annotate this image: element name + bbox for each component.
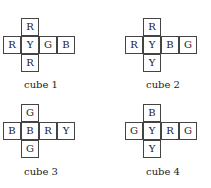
face-row-2: Y	[143, 122, 161, 140]
cube-net-3: G B B R Y G	[3, 104, 79, 160]
face-bottom: Y	[143, 54, 161, 72]
face-row-1: B	[3, 122, 21, 140]
cube-caption-1: cube 1	[3, 79, 79, 90]
face-row-3: G	[39, 36, 57, 54]
face-row-2: Y	[143, 36, 161, 54]
face-top: G	[21, 104, 39, 122]
face-top: B	[143, 104, 161, 122]
face-top: R	[21, 18, 39, 36]
face-row-3: R	[161, 122, 179, 140]
face-row-1: R	[125, 36, 143, 54]
face-bottom: Y	[143, 140, 161, 158]
cube-net-2: R R Y B G Y	[125, 18, 201, 74]
face-top: R	[143, 18, 161, 36]
cube-caption-2: cube 2	[125, 79, 201, 90]
face-row-1: G	[125, 122, 143, 140]
face-row-4: B	[57, 36, 75, 54]
face-bottom: R	[21, 54, 39, 72]
face-row-4: G	[179, 36, 197, 54]
face-row-4: G	[179, 122, 197, 140]
face-bottom: G	[21, 140, 39, 158]
cube-caption-3: cube 3	[3, 166, 79, 177]
face-row-2: Y	[21, 36, 39, 54]
cube-caption-4: cube 4	[125, 166, 201, 177]
face-row-4: Y	[57, 122, 75, 140]
face-row-3: R	[39, 122, 57, 140]
face-row-2: B	[21, 122, 39, 140]
face-row-3: B	[161, 36, 179, 54]
face-row-1: R	[3, 36, 21, 54]
cube-net-1: R R Y G B R	[3, 18, 79, 74]
cube-net-4: B G Y R G Y	[125, 104, 201, 160]
